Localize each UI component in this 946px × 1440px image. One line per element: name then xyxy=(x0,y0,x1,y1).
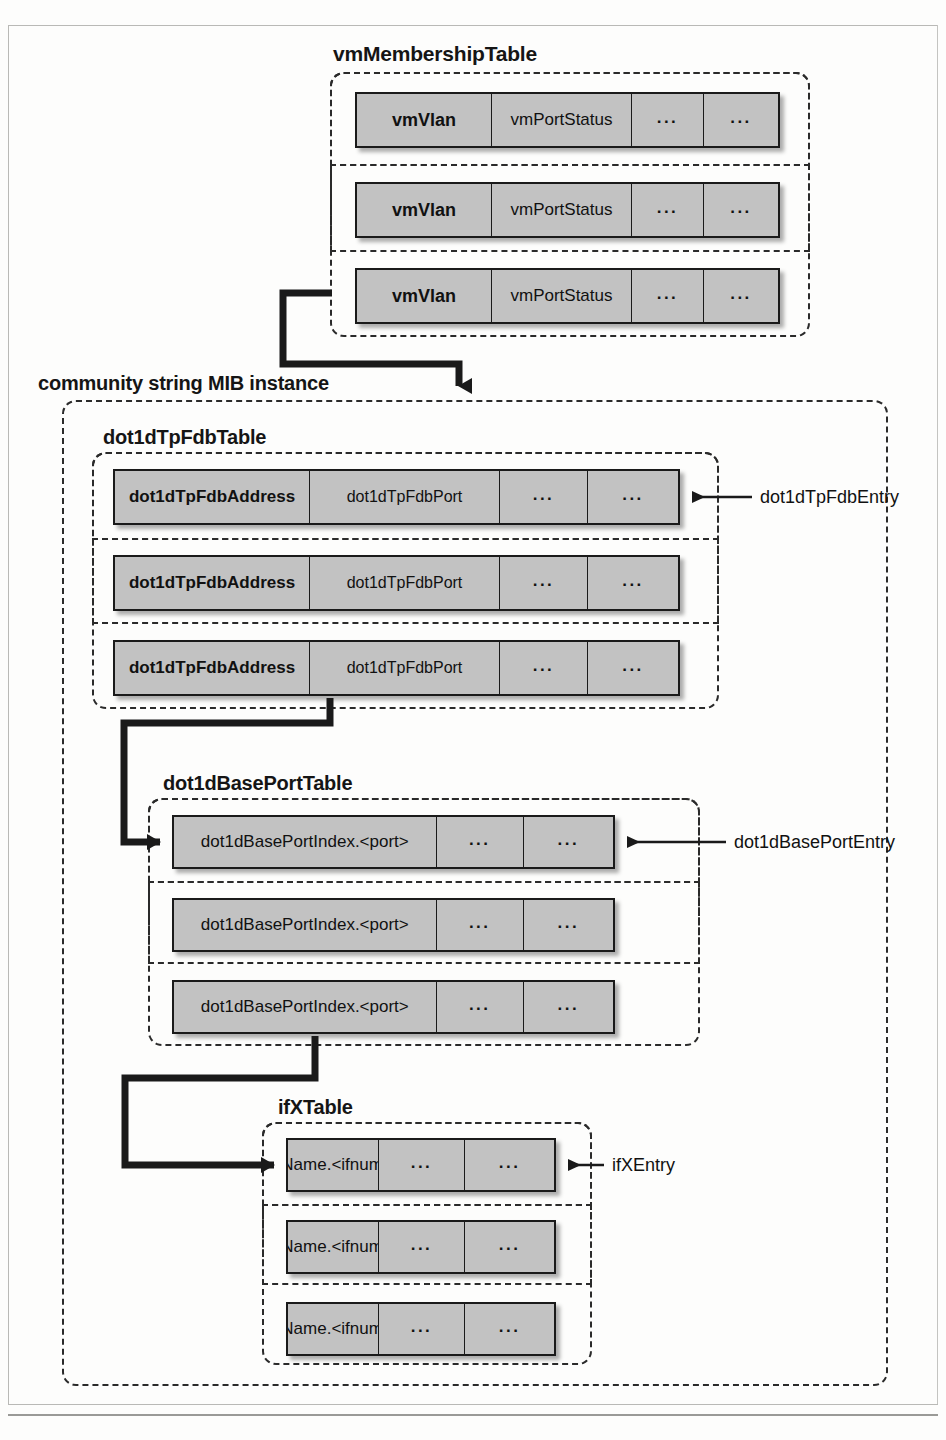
cell-ellipsis: ... xyxy=(632,184,704,236)
cell-dot1dtpfdbport: dot1dTpFdbPort xyxy=(310,557,500,609)
cell-ifname: ifName.<ifnum> xyxy=(288,1140,379,1190)
cell-ellipsis: ... xyxy=(588,642,678,694)
callout-ifxentry: ifXEntry xyxy=(612,1155,675,1176)
label-community-string-mib-instance: community string MIB instance xyxy=(38,372,329,395)
table-row: vmVlan vmPortStatus ... ... xyxy=(355,182,780,238)
table-row: dot1dTpFdbAddress dot1dTpFdbPort ... ... xyxy=(113,640,680,696)
table-row: dot1dBasePortIndex.<port> ... ... xyxy=(172,898,615,952)
cell-ellipsis: ... xyxy=(437,817,524,867)
cell-dot1dtpfdbport: dot1dTpFdbPort xyxy=(310,471,500,523)
cell-ellipsis: ... xyxy=(465,1140,554,1190)
page-edge-right xyxy=(937,25,938,1405)
cell-ellipsis: ... xyxy=(379,1140,466,1190)
cell-dot1dtpfdbaddress: dot1dTpFdbAddress xyxy=(115,642,310,694)
cell-vmportstatus: vmPortStatus xyxy=(492,184,632,236)
page-edge-bottom-shadow xyxy=(8,1414,938,1416)
table-row: dot1dTpFdbAddress dot1dTpFdbPort ... ... xyxy=(113,469,680,525)
cell-ellipsis: ... xyxy=(704,94,778,146)
label-dot1dtpfdbtable: dot1dTpFdbTable xyxy=(103,426,266,449)
table-row: dot1dBasePortIndex.<port> ... ... xyxy=(172,980,615,1034)
page-edge-bottom xyxy=(8,1404,938,1405)
scanned-page: vmMembershipTable vmVlan vmPortStatus ..… xyxy=(0,0,946,1440)
table-row: dot1dBasePortIndex.<port> ... ... xyxy=(172,815,615,869)
cell-vmportstatus: vmPortStatus xyxy=(492,94,632,146)
cell-ellipsis: ... xyxy=(524,900,613,950)
cell-ellipsis: ... xyxy=(437,982,524,1032)
cell-ellipsis: ... xyxy=(500,642,588,694)
page-edge-top xyxy=(8,25,938,26)
page-edge-left xyxy=(8,25,9,1405)
cell-ellipsis: ... xyxy=(500,471,588,523)
label-ifxtable: ifXTable xyxy=(278,1096,353,1119)
label-dot1dbaseporttable: dot1dBasePortTable xyxy=(163,772,352,795)
cell-vmvlan: vmVlan xyxy=(357,184,492,236)
callout-dot1dtpfdbentry: dot1dTpFdbEntry xyxy=(760,487,899,508)
label-vmmembershiptable: vmMembershipTable xyxy=(333,42,537,66)
table-row: ifName.<ifnum> ... ... xyxy=(286,1138,556,1192)
table-row: ifName.<ifnum> ... ... xyxy=(286,1302,556,1356)
table-row: vmVlan vmPortStatus ... ... xyxy=(355,92,780,148)
cell-ellipsis: ... xyxy=(465,1222,554,1272)
cell-ellipsis: ... xyxy=(704,270,778,322)
cell-dot1dbaseportindex: dot1dBasePortIndex.<port> xyxy=(174,982,437,1032)
cell-ellipsis: ... xyxy=(379,1222,466,1272)
cell-vmportstatus: vmPortStatus xyxy=(492,270,632,322)
table-row: ifName.<ifnum> ... ... xyxy=(286,1220,556,1274)
cell-ellipsis: ... xyxy=(632,94,704,146)
cell-ellipsis: ... xyxy=(500,557,588,609)
cell-ellipsis: ... xyxy=(437,900,524,950)
cell-dot1dtpfdbaddress: dot1dTpFdbAddress xyxy=(115,557,310,609)
cell-ifname: ifName.<ifnum> xyxy=(288,1222,379,1272)
cell-ellipsis: ... xyxy=(379,1304,466,1354)
cell-dot1dbaseportindex: dot1dBasePortIndex.<port> xyxy=(174,817,437,867)
cell-vmvlan: vmVlan xyxy=(357,270,492,322)
cell-ellipsis: ... xyxy=(465,1304,554,1354)
callout-dot1dbaseportentry: dot1dBasePortEntry xyxy=(734,832,895,853)
cell-dot1dtpfdbaddress: dot1dTpFdbAddress xyxy=(115,471,310,523)
table-row: vmVlan vmPortStatus ... ... xyxy=(355,268,780,324)
cell-ellipsis: ... xyxy=(588,557,678,609)
cell-ellipsis: ... xyxy=(524,817,613,867)
table-row: dot1dTpFdbAddress dot1dTpFdbPort ... ... xyxy=(113,555,680,611)
cell-ellipsis: ... xyxy=(524,982,613,1032)
cell-dot1dbaseportindex: dot1dBasePortIndex.<port> xyxy=(174,900,437,950)
cell-ellipsis: ... xyxy=(704,184,778,236)
cell-ellipsis: ... xyxy=(632,270,704,322)
cell-vmvlan: vmVlan xyxy=(357,94,492,146)
cell-ellipsis: ... xyxy=(588,471,678,523)
cell-ifname: ifName.<ifnum> xyxy=(288,1304,379,1354)
cell-dot1dtpfdbport: dot1dTpFdbPort xyxy=(310,642,500,694)
